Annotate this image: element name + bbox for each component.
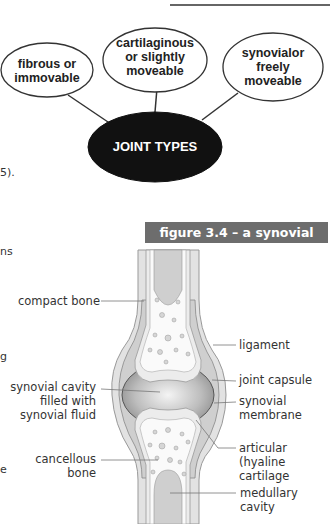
label-line: cartilage — [239, 469, 335, 483]
label-cancellous-bone: cancellous bone — [20, 452, 96, 480]
label-line: articular (hyaline — [239, 441, 335, 469]
label-line: membrane — [239, 408, 302, 422]
label-synovial-membrane: synovial membrane — [239, 394, 302, 422]
label-articular-cartilage: articular (hyaline cartilage — [239, 441, 335, 483]
label-line: cancellous — [20, 452, 96, 466]
label-compact-bone: compact bone — [10, 294, 100, 308]
label-medullary-cavity: medullary cavity — [240, 486, 335, 514]
label-line: filled with — [0, 394, 96, 408]
label-line: synovial — [239, 394, 302, 408]
label-line: synovial cavity — [0, 380, 96, 394]
label-ligament: ligament — [239, 338, 290, 352]
label-synovial-cavity: synovial cavity filled with synovial flu… — [0, 380, 96, 422]
label-line: bone — [20, 466, 96, 480]
label-line: synovial fluid — [0, 408, 96, 422]
label-joint-capsule: joint capsule — [239, 373, 312, 387]
